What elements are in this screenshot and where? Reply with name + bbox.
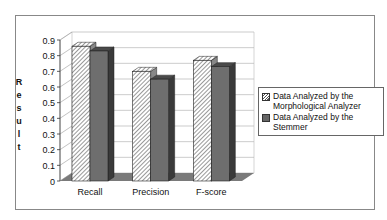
legend: Data Analyzed by theMorphological Analyz…	[258, 87, 384, 136]
x-tick-label: F-score	[196, 187, 227, 197]
solid-swatch-icon	[262, 114, 270, 122]
legend-label: Stemmer	[273, 122, 307, 132]
y-axis-title: R	[16, 77, 23, 87]
legend-item-stemmer: Data Analyzed by theStemmer	[262, 112, 380, 132]
y-tick-label: 0.4	[42, 114, 55, 124]
y-axis-title: s	[16, 103, 21, 113]
legend-label: Data Analyzed by the	[273, 112, 353, 122]
hatched-swatch-icon	[262, 93, 270, 101]
y-axis-title: e	[16, 90, 21, 100]
bar	[211, 67, 229, 181]
x-tick-label: Recall	[77, 187, 102, 197]
y-tick-label: 0.6	[42, 83, 55, 93]
bar	[193, 60, 211, 181]
y-axis-title: u	[16, 116, 22, 126]
legend-label: Data Analyzed by the	[273, 91, 353, 101]
bar	[72, 46, 90, 181]
y-tick-label: 0	[50, 177, 55, 187]
y-tick-label: 0.2	[42, 145, 55, 155]
bar	[90, 51, 108, 181]
y-tick-label: 0.7	[42, 67, 55, 77]
y-axis-title: l	[18, 129, 21, 139]
chart-container: 00.10.20.30.40.50.60.70.80.9ResultRecall…	[0, 0, 387, 220]
y-tick-label: 0.8	[42, 51, 55, 61]
y-tick-label: 0.1	[42, 161, 55, 171]
y-axis-title: t	[18, 142, 21, 152]
bar	[151, 79, 169, 181]
x-tick-label: Precision	[132, 187, 169, 197]
legend-item-morphological: Data Analyzed by theMorphological Analyz…	[262, 91, 380, 111]
bar	[133, 71, 151, 181]
legend-label: Morphological Analyzer	[273, 101, 361, 111]
y-tick-label: 0.5	[42, 98, 55, 108]
y-tick-label: 0.3	[42, 130, 55, 140]
y-tick-label: 0.9	[42, 36, 55, 46]
